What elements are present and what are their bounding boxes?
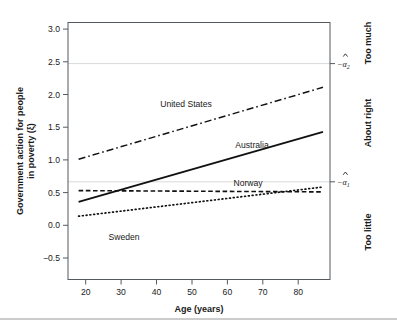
y-axis-title-line2: in poverty (ξ)	[26, 123, 36, 179]
alpha-hat-2-subscript: 2	[347, 64, 350, 70]
chart-figure: 3.0 2.5 2.0 1.5 1.0 0.5 0.0 −0.5 Governm…	[0, 0, 397, 325]
series-label-sweden: Sweden	[108, 232, 139, 242]
y-tick-label-2.0: 2.0	[48, 90, 60, 100]
poverty-action-by-age-line-chart: 3.0 2.5 2.0 1.5 1.0 0.5 0.0 −0.5 Governm…	[0, 0, 397, 325]
x-tick-label-20: 20	[81, 287, 91, 297]
y-tick-label-1.0: 1.0	[48, 155, 60, 165]
y-tick-label-2.5: 2.5	[48, 57, 60, 67]
y-axis-title-line1: Government action for people	[15, 87, 25, 215]
y-tick-label--0.5: −0.5	[43, 253, 60, 263]
x-tick-label-50: 50	[187, 287, 197, 297]
x-tick-label-60: 60	[223, 287, 233, 297]
y-tick-label-3.0: 3.0	[48, 24, 60, 34]
y-tick-label-0.0: 0.0	[48, 220, 60, 230]
x-tick-label-70: 70	[258, 287, 268, 297]
series-label-australia: Australia	[235, 140, 269, 150]
series-label-norway: Norway	[233, 178, 263, 188]
alpha-hat-1-subscript: 1	[347, 182, 350, 188]
y-tick-label-1.5: 1.5	[48, 122, 60, 132]
x-tick-label-80: 80	[293, 287, 303, 297]
category-label-about-right: About right	[363, 99, 373, 148]
x-tick-label-40: 40	[152, 287, 162, 297]
category-label-too-little: Too little	[363, 214, 373, 251]
x-axis-title: Age (years)	[174, 304, 223, 314]
series-label-united-states: United States	[160, 99, 212, 109]
response-category-labels: Too much About right Too little	[363, 22, 373, 251]
x-tick-label-30: 30	[116, 287, 126, 297]
y-tick-label-0.5: 0.5	[48, 188, 60, 198]
category-label-too-much: Too much	[363, 22, 373, 64]
